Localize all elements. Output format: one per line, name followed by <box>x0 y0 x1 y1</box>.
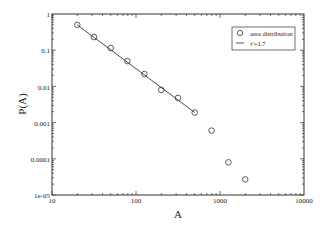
chart-container: 1e-05 0.0001 0.001 0.01 0.1 1 10 100 100… <box>0 0 329 226</box>
data-point <box>209 128 215 134</box>
legend-label: area distribution <box>250 30 293 37</box>
xtick-label: 1000 <box>213 197 228 205</box>
legend: area distribution τ'=1.7 <box>232 27 295 50</box>
legend-label: τ'=1.7 <box>250 40 266 47</box>
data-point <box>226 160 232 166</box>
ytick-label: 0.01 <box>38 84 51 92</box>
ytick-label: 1 <box>47 11 51 19</box>
xtick-label: 10 <box>49 197 57 205</box>
data-point <box>242 177 248 183</box>
ytick-label: 0.001 <box>34 120 50 128</box>
ytick-label: 0.0001 <box>31 156 51 164</box>
y-axis-label: P(A) <box>16 93 29 115</box>
fit-line <box>77 25 194 113</box>
ytick-label: 0.1 <box>41 47 50 55</box>
xtick-label: 100 <box>131 197 142 205</box>
x-axis-label: A <box>174 208 182 220</box>
xtick-label: 10000 <box>295 197 313 205</box>
data-points <box>74 22 248 182</box>
data-point <box>74 22 80 28</box>
log-log-plot: 1e-05 0.0001 0.001 0.01 0.1 1 10 100 100… <box>0 0 329 226</box>
